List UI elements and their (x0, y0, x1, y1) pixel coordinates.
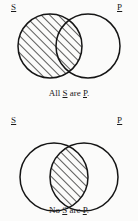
term-label-s-bottom: S (11, 115, 16, 125)
shaded-region-s-circle (0, 0, 138, 88)
venn-diagram-all-s-are-p (0, 0, 138, 88)
venn-figure-no-s-are-p: S P No S are P. (0, 110, 138, 221)
caption-all-s-are-p: All S are P. (0, 88, 138, 99)
venn-stage-no (0, 126, 138, 216)
caption-no-prefix: No (49, 205, 62, 215)
caption-no-suffix: . (87, 205, 89, 215)
venn-stage-all (0, 0, 138, 88)
caption-no-middle: are (67, 205, 83, 215)
venn-figure-all-s-are-p: S P All S are P. (0, 0, 138, 110)
caption-all-middle: are (68, 88, 84, 98)
caption-all-prefix: All (49, 88, 63, 98)
venn-diagram-no-s-are-p (0, 126, 138, 216)
caption-all-suffix: . (87, 88, 89, 98)
caption-no-s-are-p: No S are P. (0, 205, 138, 216)
term-label-p-bottom: P (117, 115, 122, 125)
